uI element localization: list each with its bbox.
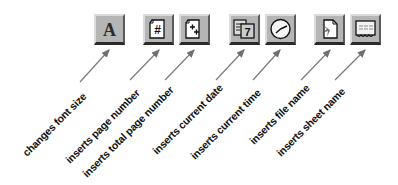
page-number-button[interactable]: # bbox=[143, 14, 174, 45]
current-time-button[interactable] bbox=[265, 14, 296, 45]
calendar-date-icon: 7 bbox=[231, 16, 258, 42]
callout-arrow bbox=[216, 50, 244, 80]
font-size-button[interactable]: A bbox=[94, 14, 125, 45]
font-a-icon: A bbox=[96, 16, 123, 42]
clock-icon bbox=[267, 16, 294, 42]
callout-arrow bbox=[335, 50, 365, 80]
file-name-button[interactable] bbox=[314, 14, 345, 45]
svg-text:7: 7 bbox=[244, 26, 250, 38]
svg-text:#: # bbox=[154, 23, 161, 37]
callout-arrow bbox=[253, 50, 280, 80]
svg-text:A: A bbox=[103, 20, 116, 40]
file-name-icon bbox=[316, 16, 343, 42]
total-pages-icon bbox=[181, 16, 208, 42]
page-number-icon: # bbox=[145, 16, 172, 42]
callout-arrow bbox=[165, 50, 194, 80]
callout-arrow bbox=[80, 50, 109, 82]
header-footer-toolbar-diagram: A # 7 bbox=[0, 0, 398, 185]
callout-arrow bbox=[130, 50, 159, 80]
current-date-button[interactable]: 7 bbox=[229, 14, 260, 45]
callout-arrow bbox=[301, 50, 330, 80]
total-pages-button[interactable] bbox=[179, 14, 210, 45]
sheet-name-button[interactable] bbox=[350, 14, 381, 45]
sheet-name-icon bbox=[352, 16, 379, 42]
